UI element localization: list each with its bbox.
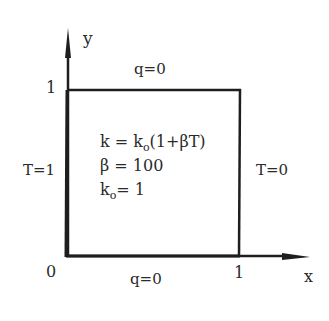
- left-boundary: [66, 90, 67, 257]
- left-boundary-condition: T=1: [23, 163, 55, 178]
- k0-base: k: [100, 180, 110, 199]
- y-axis-label: y: [83, 30, 93, 47]
- right-boundary-condition: T=0: [256, 163, 288, 178]
- origin-label: 0: [46, 264, 56, 280]
- equation-subscript: o: [143, 141, 150, 154]
- k0-value: ko= 1: [100, 182, 145, 198]
- y-tick-label: 1: [46, 80, 56, 96]
- y-axis-arrowhead: [65, 28, 71, 58]
- x-axis-arrowhead: [282, 253, 310, 260]
- conductivity-equation: k = ko(1+βT): [100, 134, 206, 150]
- equation-lhs: k = k: [100, 132, 143, 151]
- right-boundary: [239, 89, 240, 257]
- equation-rhs: (1+βT): [150, 132, 206, 151]
- beta-value: β = 100: [100, 158, 163, 174]
- k0-subscript: o: [110, 189, 117, 202]
- top-boundary-condition: q=0: [134, 62, 166, 77]
- bottom-boundary-condition: q=0: [130, 272, 162, 287]
- x-axis-label: x: [304, 269, 313, 285]
- x-tick-label: 1: [234, 265, 244, 281]
- k0-rhs: = 1: [116, 180, 145, 199]
